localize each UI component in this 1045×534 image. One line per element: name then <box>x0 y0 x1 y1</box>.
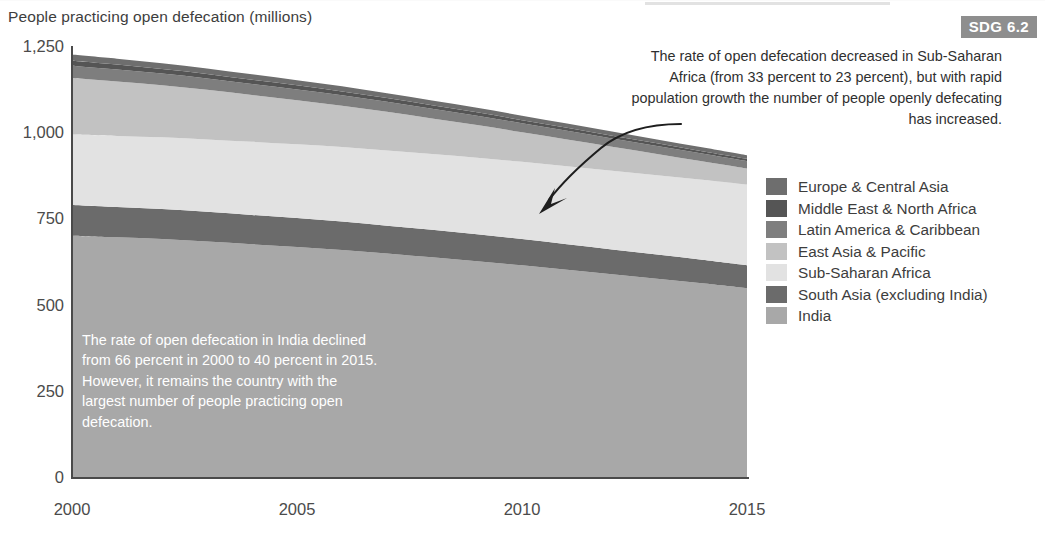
legend-swatch-icon <box>766 243 787 260</box>
y-axis-tick-label: 0 <box>2 469 64 486</box>
legend-item-label: Latin America & Caribbean <box>798 222 980 237</box>
legend-item-label: East Asia & Pacific <box>798 244 926 259</box>
legend-item-label: Sub-Saharan Africa <box>798 265 931 280</box>
legend-item[interactable]: Latin America & Caribbean <box>766 219 988 241</box>
legend-item-label: Europe & Central Asia <box>798 179 949 194</box>
y-axis-tick-label: 1,000 <box>2 124 64 141</box>
x-axis-line <box>71 477 749 479</box>
legend-item[interactable]: East Asia & Pacific <box>766 241 988 263</box>
x-axis-tick-label: 2005 <box>279 500 316 519</box>
y-axis-tick-label: 1,250 <box>2 38 64 55</box>
legend-swatch-icon <box>766 286 787 303</box>
legend-item[interactable]: Sub-Saharan Africa <box>766 262 988 284</box>
legend-item-label: India <box>798 308 831 323</box>
legend-item[interactable]: India <box>766 305 988 327</box>
y-axis-ticks: 02505007501,0001,250 <box>0 0 64 534</box>
annotation-arrow-icon <box>505 118 685 218</box>
annotation-india: The rate of open defecation in India dec… <box>82 330 382 432</box>
legend-swatch-icon <box>766 178 787 195</box>
legend-item[interactable]: Europe & Central Asia <box>766 176 988 198</box>
y-axis-line <box>71 46 73 478</box>
chart-canvas: People practicing open defecation (milli… <box>0 0 1045 534</box>
legend-item-label: Middle East & North Africa <box>798 201 977 216</box>
status-badge: SDG 6.2 <box>961 16 1037 38</box>
legend-swatch-icon <box>766 264 787 281</box>
top-edge-artifact <box>0 0 1045 1</box>
legend-item[interactable]: Middle East & North Africa <box>766 198 988 220</box>
y-axis-tick-label: 250 <box>2 383 64 400</box>
legend-swatch-icon <box>766 307 787 324</box>
legend: Europe & Central AsiaMiddle East & North… <box>766 176 988 327</box>
y-axis-tick-label: 750 <box>2 210 64 227</box>
legend-swatch-icon <box>766 200 787 217</box>
legend-item-label: South Asia (excluding India) <box>798 287 988 302</box>
x-axis-tick-label: 2015 <box>729 500 766 519</box>
cropped-text-artifact <box>645 2 890 5</box>
legend-swatch-icon <box>766 221 787 238</box>
legend-item[interactable]: South Asia (excluding India) <box>766 284 988 306</box>
x-axis-tick-label: 2000 <box>54 500 91 519</box>
x-axis-tick-label: 2010 <box>504 500 541 519</box>
y-axis-tick-label: 500 <box>2 297 64 314</box>
